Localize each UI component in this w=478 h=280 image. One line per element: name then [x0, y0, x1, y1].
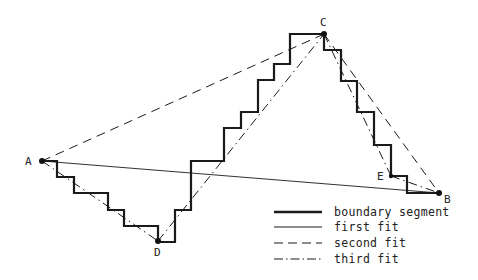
- vertex-marker-A: [39, 158, 45, 164]
- legend-label-second-fit: second fit: [334, 236, 406, 250]
- vertex-marker-E: [389, 174, 393, 178]
- third-fit-line-AD: [42, 161, 158, 241]
- vertex-marker-D: [155, 238, 161, 244]
- diagram-canvas: A B C D E boundary segment first fit sec…: [0, 0, 478, 280]
- legend-label-third-fit: third fit: [334, 252, 399, 266]
- legend-label-boundary: boundary segment: [334, 205, 450, 219]
- point-label-D: D: [154, 246, 161, 259]
- point-label-A: A: [25, 155, 32, 168]
- vertex-marker-B: [436, 190, 442, 196]
- vertex-marker-C: [321, 31, 327, 37]
- point-label-C: C: [320, 16, 327, 29]
- legend: boundary segment first fit second fit th…: [274, 205, 450, 266]
- second-fit-line-AC: [42, 34, 324, 161]
- third-fit-line-EB: [391, 176, 439, 193]
- point-label-E: E: [377, 170, 384, 183]
- legend-label-first-fit: first fit: [334, 220, 399, 234]
